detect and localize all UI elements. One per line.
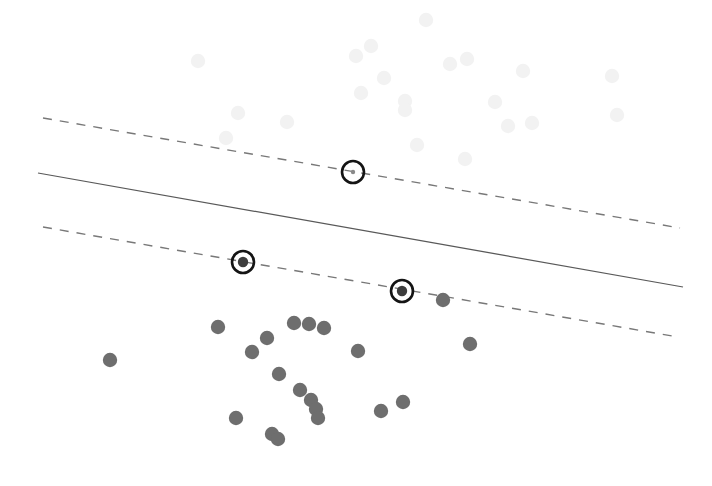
background-data-point: [488, 95, 502, 109]
background-data-point: [354, 86, 368, 100]
plot-canvas: [0, 0, 712, 486]
data-point: [436, 293, 450, 307]
background-data-point: [501, 119, 515, 133]
background-data-point: [349, 49, 363, 63]
background-data-point: [410, 138, 424, 152]
data-point: [287, 316, 301, 330]
background-data-point: [605, 69, 619, 83]
data-point: [229, 411, 243, 425]
background-data-point: [191, 54, 205, 68]
background-data-point: [525, 116, 539, 130]
scatter-plot-figure: [0, 0, 712, 486]
background-data-point: [231, 106, 245, 120]
highlighted-point-core: [238, 257, 248, 267]
background-data-point: [219, 131, 233, 145]
background-data-point: [460, 52, 474, 66]
data-point: [211, 320, 225, 334]
data-point: [351, 344, 365, 358]
background-data-point: [443, 57, 457, 71]
highlighted-point-core: [351, 170, 355, 174]
data-point: [245, 345, 259, 359]
data-point: [103, 353, 117, 367]
data-point: [374, 404, 388, 418]
highlighted-point-core: [397, 286, 407, 296]
background-data-point: [280, 115, 294, 129]
data-point: [260, 331, 274, 345]
background-data-point: [610, 108, 624, 122]
data-point: [463, 337, 477, 351]
data-point: [271, 432, 285, 446]
background-data-point: [398, 103, 412, 117]
data-point: [317, 321, 331, 335]
background-data-point: [516, 64, 530, 78]
data-point: [293, 383, 307, 397]
data-point: [311, 411, 325, 425]
background-data-point: [377, 71, 391, 85]
plot-background: [0, 0, 712, 486]
background-data-point: [419, 13, 433, 27]
data-point: [302, 317, 316, 331]
data-point: [272, 367, 286, 381]
data-point: [396, 395, 410, 409]
background-data-point: [364, 39, 378, 53]
background-data-point: [458, 152, 472, 166]
